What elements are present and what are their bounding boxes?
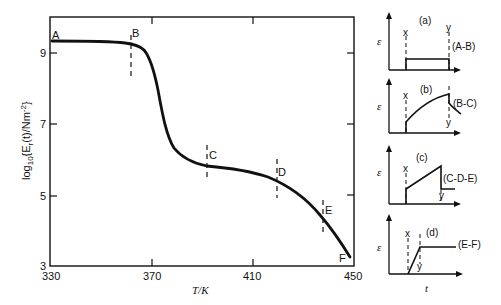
panel-d-y-marker: y [417, 261, 422, 272]
main-plot: 9 7 5 3 330 370 410 450 T/K log10{Er(t)/… [19, 17, 362, 296]
panel-d-region: (E-F) [458, 239, 481, 250]
svg-text:log10{Er(t)/Nm-2}: log10{Er(t)/Nm-2} [19, 101, 35, 180]
y-axis-label: log10{Er(t)/Nm-2} [19, 101, 35, 180]
panel-d-x-marker: x [405, 228, 410, 239]
panel-a-x-marker: x [403, 27, 408, 38]
y-tick-9: 9 [40, 47, 46, 59]
panel-a-title: (a) [419, 15, 431, 26]
x-axis-label: T/K [192, 284, 209, 296]
plot-frame [50, 17, 354, 266]
panel-d-ylabel: ε [377, 241, 382, 253]
point-label-b: B [132, 27, 139, 39]
panel-c-title: (c) [416, 152, 428, 163]
panel-b-y-marker: y [446, 117, 451, 128]
panel-c-y-marker: y [439, 190, 444, 201]
x-tick-450: 450 [344, 270, 362, 282]
panel-b-ylabel: ε [377, 100, 382, 112]
panel-b-region: (B-C) [453, 98, 477, 109]
point-label-d: D [278, 166, 286, 178]
panel-c-x-marker: x [403, 163, 408, 174]
y-ticks [50, 17, 354, 266]
point-label-f: F [339, 252, 346, 264]
panel-a-ylabel: ε [377, 35, 382, 47]
point-label-a: A [52, 29, 60, 41]
x-tick-330: 330 [42, 270, 60, 282]
panel-a-region: (A-B) [452, 41, 475, 52]
x-tick-370: 370 [143, 270, 161, 282]
point-label-c: C [209, 149, 217, 161]
y-tick-7: 7 [40, 118, 46, 130]
panel-d [386, 214, 463, 277]
panel-c-ylabel: ε [377, 166, 382, 178]
panel-d-title: (d) [426, 227, 438, 238]
modulus-curve [52, 41, 350, 257]
panel-d-xlabel: t [425, 282, 429, 294]
panel-c-region: (C-D-E) [443, 173, 477, 184]
panel-b-title: (b) [420, 84, 432, 95]
point-label-e: E [325, 204, 332, 216]
figure: 9 7 5 3 330 370 410 450 T/K log10{Er(t)/… [0, 0, 501, 305]
panel-b-x-marker: x [403, 90, 408, 101]
panel-a-y-marker: y [446, 22, 451, 33]
x-tick-410: 410 [243, 270, 261, 282]
y-tick-5: 5 [40, 190, 46, 202]
